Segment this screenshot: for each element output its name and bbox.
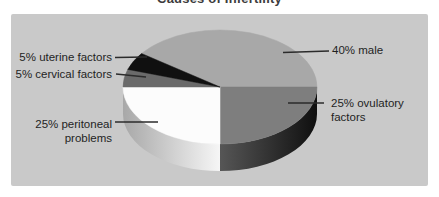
callout-peritoneal-problems: 25% peritoneal problems bbox=[35, 117, 112, 145]
leader-line-uterine bbox=[115, 57, 147, 58]
callout-cervical-factors: 5% cervical factors bbox=[15, 67, 112, 81]
callout-peritoneal-line2: problems bbox=[35, 131, 112, 145]
callout-ovulatory-line1: 25% ovulatory bbox=[331, 96, 404, 110]
callout-ovulatory-line2: factors bbox=[331, 110, 404, 124]
callout-uterine-label: 5% uterine factors bbox=[19, 51, 112, 63]
callout-ovulatory-factors: 25% ovulatory factors bbox=[331, 96, 404, 124]
callout-male-label: 40% male bbox=[332, 44, 383, 56]
callout-peritoneal-line1: 25% peritoneal bbox=[35, 117, 112, 131]
figure: Causes of Infertility 5% uterine factors… bbox=[0, 0, 439, 197]
callout-cervical-label: 5% cervical factors bbox=[15, 68, 112, 80]
callout-male: 40% male bbox=[332, 43, 383, 57]
callout-uterine-factors: 5% uterine factors bbox=[19, 50, 112, 64]
